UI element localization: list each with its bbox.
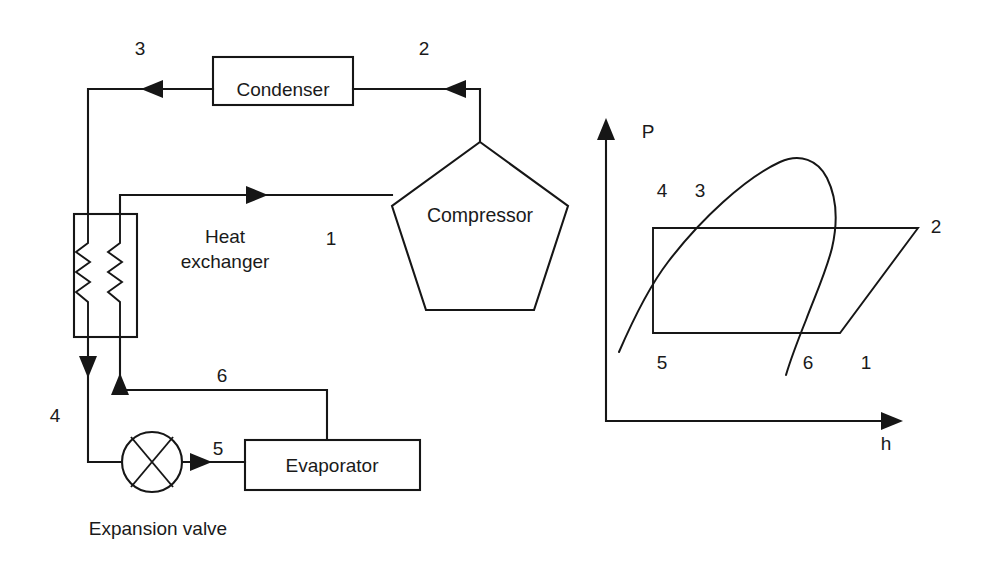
ph-state-label-2: 2 xyxy=(931,216,942,237)
flow-state-label-2: 2 xyxy=(419,38,430,59)
arrow-state-5 xyxy=(190,453,212,471)
ph-state-label-5: 5 xyxy=(657,352,668,373)
arrow-state-6 xyxy=(111,373,129,395)
flow-state-label-1: 1 xyxy=(326,228,337,249)
flow-state-label-3: 3 xyxy=(135,38,146,59)
ph-diagram-group: P h 4 3 2 5 6 1 xyxy=(597,118,941,454)
compressor-label: Compressor xyxy=(427,204,534,226)
arrow-into-condenser-inlet xyxy=(444,80,466,98)
ph-state-label-3: 3 xyxy=(695,180,706,201)
enthalpy-axis-label: h xyxy=(881,433,892,454)
arrow-state-3 xyxy=(141,80,163,98)
pipe-heat-exchanger-to-expansion-valve xyxy=(88,337,122,462)
heat-exchanger-box[interactable] xyxy=(74,214,137,337)
cycle-path-polygon xyxy=(653,228,918,333)
flow-diagram-group: Condenser Compressor Heat exchanger Evap… xyxy=(50,38,568,539)
arrow-state-4 xyxy=(79,356,97,378)
ph-axes-lines xyxy=(606,134,886,421)
condenser-label: Condenser xyxy=(237,79,331,100)
refrigeration-cycle-diagram: Condenser Compressor Heat exchanger Evap… xyxy=(0,0,982,561)
figure-canvas: Condenser Compressor Heat exchanger Evap… xyxy=(0,0,982,561)
arrow-state-1 xyxy=(246,186,268,204)
compressor-pentagon[interactable] xyxy=(392,142,568,310)
pressure-axis-label: P xyxy=(642,121,655,142)
ph-state-label-4: 4 xyxy=(657,180,668,201)
flow-state-label-6: 6 xyxy=(217,365,228,386)
pipe-evaporator-to-heat-exchanger xyxy=(120,337,327,440)
heat-exchanger-label-line2: exchanger xyxy=(181,251,270,272)
heat-exchanger-label-line1: Heat xyxy=(205,226,246,247)
enthalpy-axis-arrowhead xyxy=(881,412,903,430)
expansion-valve-label: Expansion valve xyxy=(89,518,227,539)
ph-state-label-6: 6 xyxy=(803,352,814,373)
pipe-compressor-to-condenser xyxy=(353,89,480,142)
evaporator-label: Evaporator xyxy=(286,455,380,476)
flow-state-label-4: 4 xyxy=(50,405,61,426)
saturation-dome-curve xyxy=(619,158,836,375)
ph-state-label-1: 1 xyxy=(861,352,872,373)
pressure-axis-arrowhead xyxy=(597,118,615,140)
flow-state-label-5: 5 xyxy=(213,438,224,459)
